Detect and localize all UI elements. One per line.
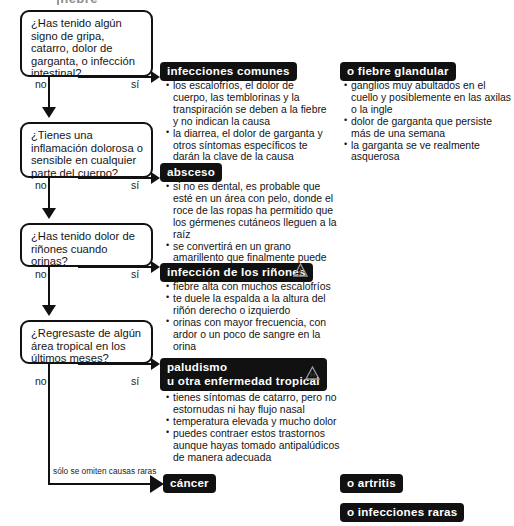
outcome-banner-infecciones-comunes[interactable]: infecciones comunes (160, 62, 297, 81)
outcome-title-artritis: o artritis (347, 476, 396, 489)
question-box-4[interactable]: ¿Regresaste de algún área tropical en lo… (20, 320, 153, 364)
side-outcome-title-fiebre-glandular: o fiebre glandular (347, 64, 449, 77)
question-box-3[interactable]: ¿Has tenido dolor de riñones cuando orin… (20, 223, 153, 267)
question-box-2[interactable]: ¿Tienes una inflamación dolorosa o sensi… (20, 122, 153, 178)
q3-yes-arrowhead (151, 261, 160, 273)
q3-no-label: no (35, 268, 47, 280)
bullet-item: ganglios muy abultados en el cuello y po… (344, 80, 512, 116)
outcome-title-cancer: cáncer (170, 476, 209, 489)
q2-no-arrowhead (42, 208, 56, 219)
q4-no-label: no (35, 375, 47, 387)
bullet-item: si no es dental, es probable que esté en… (166, 181, 338, 241)
question-3-text: ¿Has tenido dolor de riñones cuando orin… (31, 230, 135, 267)
q1-yes-arrowhead (151, 71, 160, 83)
side-outcome-bullets-fiebre-glandular: ganglios muy abultados en el cuello y po… (344, 80, 512, 163)
outcome-title-infecciones-raras: o infecciones raras (347, 505, 457, 518)
outcome-banner-infecciones-raras[interactable]: o infecciones raras (340, 503, 464, 522)
bullet-item: orinas con mayor frecuencia, con ardor o… (166, 317, 344, 353)
bullet-item: dolor de garganta que persiste más de un… (344, 116, 512, 140)
bullet-item: tienes síntomas de catarro, pero no esto… (166, 392, 348, 416)
question-1-text: ¿Has tenido algún signo de gripa, catarr… (31, 17, 135, 79)
outcome-banner-cancer[interactable]: cáncer (163, 474, 216, 493)
question-2-text: ¿Tienes una inflamación dolorosa o sensi… (31, 129, 143, 179)
outcome-title-absceso: absceso (167, 165, 215, 178)
cancer-connector (48, 483, 154, 485)
bullet-item: fiebre alta con muchos escalofríos (166, 281, 344, 293)
flowchart-page: fiebre ¿Has tenido algún signo de gripa,… (0, 0, 514, 526)
bullet-item: la garganta se ve realmente asquerosa (344, 140, 512, 164)
page-title: fiebre (60, 0, 180, 5)
outcome-bullets-absceso: si no es dental, es probable que esté en… (166, 181, 338, 276)
outcome-title-infeccion-rinones: infección de los riñones (167, 265, 306, 278)
q4-yes-label: sí (131, 375, 139, 387)
warning-triangle-icon (293, 263, 308, 277)
outcome-bullets-infeccion-rinones: fiebre alta con muchos escalofríos te du… (166, 281, 344, 352)
cancer-arrowhead (150, 475, 164, 493)
outcome-bullets-infecciones-comunes: los escalofríos, el dolor de cuerpo, las… (166, 80, 328, 163)
bullet-item: temperatura elevada y mucho dolor (166, 416, 348, 428)
q4-no-connector (48, 364, 50, 485)
q3-no-connector (48, 267, 50, 307)
bullet-item: la diarrea, el dolor de garganta y otros… (166, 128, 328, 164)
q2-no-label: no (35, 179, 47, 191)
page-title-clipped: fiebre (60, 0, 180, 5)
outcome-banner-paludismo[interactable]: paludismo u otra enfermedad tropical (160, 358, 327, 391)
q1-no-connector (48, 77, 50, 109)
q2-yes-label: sí (131, 179, 139, 191)
q4-yes-arrowhead (151, 358, 160, 370)
bullet-item: puedes contraer estos trastornos aunque … (166, 428, 348, 464)
q3-yes-label: sí (131, 268, 139, 280)
header-rule (57, 0, 59, 5)
question-4-text: ¿Regresaste de algún área tropical en lo… (31, 327, 141, 364)
outcome-banner-absceso[interactable]: absceso (160, 163, 222, 182)
q2-yes-arrowhead (151, 172, 160, 184)
svg-text:H: H (310, 370, 315, 379)
hospital-triangle-icon: H (305, 366, 320, 380)
bullet-item: te duele la espalda a la altura del riñó… (166, 293, 344, 317)
outcome-banner-artritis[interactable]: o artritis (340, 474, 403, 493)
outcome-title-infecciones-comunes: infecciones comunes (167, 64, 290, 77)
q1-no-arrowhead (42, 107, 56, 118)
side-outcome-banner-fiebre-glandular[interactable]: o fiebre glandular (340, 62, 456, 81)
bullet-item: los escalofríos, el dolor de cuerpo, las… (166, 80, 328, 128)
outcome-bullets-paludismo: tienes síntomas de catarro, pero no esto… (166, 392, 348, 463)
q1-yes-label: sí (131, 78, 139, 90)
q2-no-connector (48, 178, 50, 210)
question-box-1[interactable]: ¿Has tenido algún signo de gripa, catarr… (20, 10, 153, 77)
omitted-causes-note: sólo se omiten causas raras (53, 466, 156, 476)
outcome-title-paludismo: paludismo (167, 360, 320, 374)
outcome-subtitle-paludismo: u otra enfermedad tropical (167, 374, 320, 388)
outcome-banner-infeccion-rinones[interactable]: infección de los riñones (160, 263, 313, 282)
q3-no-arrowhead (42, 305, 56, 316)
